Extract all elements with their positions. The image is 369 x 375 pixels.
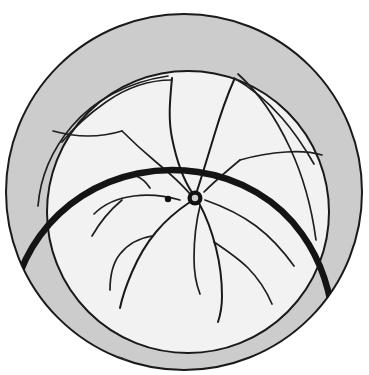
optic-disc-cup xyxy=(192,195,198,201)
fundus-diagram: Retinal fundus schematic drawing Circula… xyxy=(0,0,369,375)
figure-root: Retinal fundus schematic drawing Circula… xyxy=(0,0,369,375)
macula-dot xyxy=(165,196,171,202)
